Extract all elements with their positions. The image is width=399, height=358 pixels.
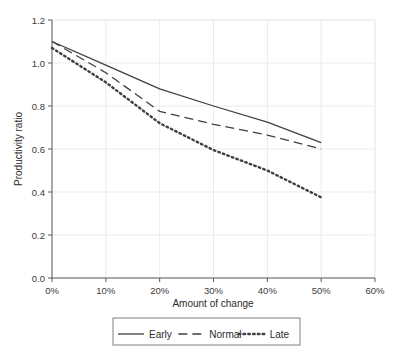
x-tick-label: 30% [204,285,224,296]
x-tick-label: 60% [365,285,385,296]
y-tick-label: 1.2 [32,15,45,26]
y-tick-labels: 0.00.20.40.60.81.01.2 [32,15,45,284]
x-tick-label: 50% [312,285,332,296]
y-tick-label: 1.0 [32,58,45,69]
x-axis-ticks [52,278,375,282]
x-tick-labels: 0%10%20%30%40%50%60% [45,285,385,296]
x-axis-title: Amount of change [172,298,254,309]
legend-label-late: Late [270,329,290,340]
y-tick-label: 0.4 [32,187,45,198]
line-chart: 0%10%20%30%40%50%60% 0.00.20.40.60.81.01… [0,0,399,358]
y-axis-title: Productivity ratio [13,112,24,186]
y-tick-label: 0.2 [32,230,45,241]
x-tick-label: 20% [150,285,170,296]
x-tick-label: 0% [45,285,59,296]
legend-label-normal: Normal [209,329,241,340]
y-tick-label: 0.0 [32,273,45,284]
y-tick-label: 0.6 [32,144,45,155]
chart-figure: 0%10%20%30%40%50%60% 0.00.20.40.60.81.01… [0,0,399,358]
y-axis-ticks [48,20,52,278]
y-tick-label: 0.8 [32,101,45,112]
legend-label-early: Early [149,329,172,340]
x-tick-label: 10% [96,285,116,296]
x-tick-label: 40% [258,285,278,296]
